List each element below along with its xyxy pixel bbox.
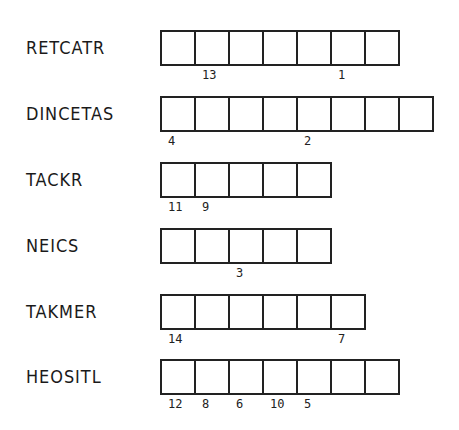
letter-input[interactable] <box>196 361 228 393</box>
letter-box[interactable] <box>160 30 196 66</box>
letter-input[interactable] <box>332 32 364 64</box>
letter-box[interactable] <box>262 228 298 264</box>
letter-input[interactable] <box>298 164 330 196</box>
letter-box[interactable] <box>330 96 366 132</box>
puzzle-row: HEOSITL1286105 <box>0 359 459 393</box>
letter-box[interactable]: 3 <box>228 228 264 264</box>
letter-box[interactable]: 6 <box>228 359 264 395</box>
letter-box[interactable]: 8 <box>194 359 230 395</box>
letter-input[interactable] <box>196 32 228 64</box>
letter-box[interactable]: 2 <box>296 96 332 132</box>
letter-box[interactable] <box>296 162 332 198</box>
letter-box[interactable]: 10 <box>262 359 298 395</box>
scrambled-word: NEICS <box>26 236 79 256</box>
letter-box[interactable] <box>398 96 434 132</box>
letter-box[interactable] <box>228 162 264 198</box>
clue-number: 7 <box>338 332 345 346</box>
letter-input[interactable] <box>162 164 194 196</box>
letter-box[interactable] <box>296 228 332 264</box>
clue-number: 14 <box>168 332 182 346</box>
letter-box[interactable] <box>296 294 332 330</box>
letter-input[interactable] <box>162 32 194 64</box>
scrambled-word: RETCATR <box>26 38 105 58</box>
scrambled-word: HEOSITL <box>26 367 102 387</box>
letter-input[interactable] <box>332 98 364 130</box>
letter-input[interactable] <box>230 32 262 64</box>
letter-box[interactable]: 7 <box>330 294 366 330</box>
answer-boxes: 3 <box>160 228 330 264</box>
letter-box[interactable] <box>262 30 298 66</box>
letter-input[interactable] <box>366 98 398 130</box>
letter-box[interactable] <box>262 96 298 132</box>
clue-number: 9 <box>202 200 209 214</box>
letter-box[interactable] <box>228 30 264 66</box>
letter-input[interactable] <box>366 361 398 393</box>
letter-box[interactable]: 12 <box>160 359 196 395</box>
letter-input[interactable] <box>298 230 330 262</box>
letter-box[interactable] <box>330 359 366 395</box>
letter-input[interactable] <box>332 361 364 393</box>
letter-box[interactable]: 4 <box>160 96 196 132</box>
letter-input[interactable] <box>332 296 364 328</box>
answer-boxes: 42 <box>160 96 432 132</box>
clue-number: 4 <box>168 134 175 148</box>
letter-input[interactable] <box>230 230 262 262</box>
letter-input[interactable] <box>264 164 296 196</box>
letter-input[interactable] <box>264 296 296 328</box>
puzzle-row: RETCATR131 <box>0 30 459 64</box>
puzzle-row: NEICS3 <box>0 228 459 262</box>
clue-number: 6 <box>236 397 243 411</box>
clue-number: 12 <box>168 397 182 411</box>
letter-input[interactable] <box>196 98 228 130</box>
letter-input[interactable] <box>196 296 228 328</box>
letter-box[interactable]: 9 <box>194 162 230 198</box>
letter-box[interactable]: 5 <box>296 359 332 395</box>
letter-input[interactable] <box>264 32 296 64</box>
puzzle-row: TAKMER147 <box>0 294 459 328</box>
letter-input[interactable] <box>230 164 262 196</box>
letter-box[interactable] <box>364 359 400 395</box>
letter-input[interactable] <box>298 32 330 64</box>
letter-input[interactable] <box>162 296 194 328</box>
letter-input[interactable] <box>298 361 330 393</box>
letter-box[interactable]: 1 <box>330 30 366 66</box>
letter-box[interactable]: 13 <box>194 30 230 66</box>
clue-number: 10 <box>270 397 284 411</box>
clue-number: 1 <box>338 68 345 82</box>
letter-input[interactable] <box>264 230 296 262</box>
puzzle-row: TACKR119 <box>0 162 459 196</box>
answer-boxes: 1286105 <box>160 359 398 395</box>
clue-number: 8 <box>202 397 209 411</box>
letter-box[interactable] <box>194 96 230 132</box>
letter-input[interactable] <box>230 98 262 130</box>
letter-box[interactable] <box>364 30 400 66</box>
clue-number: 2 <box>304 134 311 148</box>
letter-input[interactable] <box>196 164 228 196</box>
letter-input[interactable] <box>264 361 296 393</box>
letter-input[interactable] <box>366 32 398 64</box>
letter-box[interactable] <box>364 96 400 132</box>
letter-box[interactable] <box>194 228 230 264</box>
answer-boxes: 119 <box>160 162 330 198</box>
letter-box[interactable] <box>228 294 264 330</box>
letter-box[interactable] <box>160 228 196 264</box>
letter-input[interactable] <box>264 98 296 130</box>
letter-input[interactable] <box>400 98 432 130</box>
letter-input[interactable] <box>162 361 194 393</box>
letter-input[interactable] <box>162 98 194 130</box>
letter-input[interactable] <box>162 230 194 262</box>
letter-input[interactable] <box>298 296 330 328</box>
letter-box[interactable] <box>262 294 298 330</box>
letter-box[interactable] <box>262 162 298 198</box>
letter-input[interactable] <box>230 296 262 328</box>
letter-box[interactable] <box>296 30 332 66</box>
letter-input[interactable] <box>196 230 228 262</box>
clue-number: 5 <box>304 397 311 411</box>
letter-box[interactable]: 14 <box>160 294 196 330</box>
letter-input[interactable] <box>230 361 262 393</box>
letter-box[interactable]: 11 <box>160 162 196 198</box>
letter-box[interactable] <box>228 96 264 132</box>
letter-box[interactable] <box>194 294 230 330</box>
letter-input[interactable] <box>298 98 330 130</box>
scrambled-word: TAKMER <box>26 302 97 322</box>
